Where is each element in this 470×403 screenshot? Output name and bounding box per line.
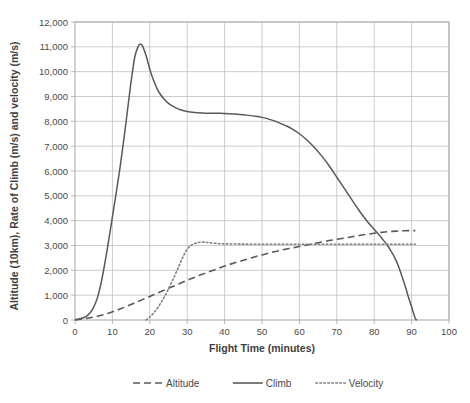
x-tick-label: 90: [406, 326, 417, 337]
x-tick-label: 100: [441, 326, 457, 337]
x-tick-label: 10: [107, 326, 118, 337]
flight-profile-chart: 01,0002,0003,0004,0005,0006,0007,0008,00…: [0, 0, 470, 403]
y-tick-label: 7,000: [44, 141, 68, 152]
y-tick-label: 9,000: [44, 91, 68, 102]
x-tick-label: 70: [332, 326, 343, 337]
legend-label-velocity: Velocity: [349, 378, 383, 389]
chart-container: 01,0002,0003,0004,0005,0006,0007,0008,00…: [0, 0, 470, 403]
x-tick-label: 60: [294, 326, 305, 337]
x-tick-label: 30: [182, 326, 193, 337]
y-tick-label: 10,000: [39, 66, 68, 77]
y-tick-label: 11,000: [40, 41, 68, 52]
x-tick-label: 20: [145, 326, 156, 337]
y-tick-label: 5,000: [44, 190, 68, 201]
y-tick-label: 0: [63, 315, 68, 326]
x-tick-label: 80: [369, 326, 380, 337]
y-tick-label: 6,000: [44, 166, 68, 177]
legend-label-altitude: Altitude: [166, 378, 200, 389]
y-axis-title: Altitude (10km), Rate of Climb (m/s) and…: [8, 42, 20, 311]
x-axis-title: Flight Time (minutes): [209, 342, 315, 354]
x-tick-label: 40: [219, 326, 230, 337]
y-tick-label: 1,000: [44, 290, 68, 301]
y-tick-label: 3,000: [44, 240, 68, 251]
legend-label-climb: Climb: [266, 378, 292, 389]
y-tick-label: 12,000: [39, 17, 68, 28]
x-tick-label: 0: [72, 326, 77, 337]
y-tick-label: 2,000: [44, 265, 68, 276]
x-tick-label: 50: [257, 326, 268, 337]
y-tick-label: 8,000: [44, 116, 68, 127]
y-tick-label: 4,000: [44, 215, 68, 226]
